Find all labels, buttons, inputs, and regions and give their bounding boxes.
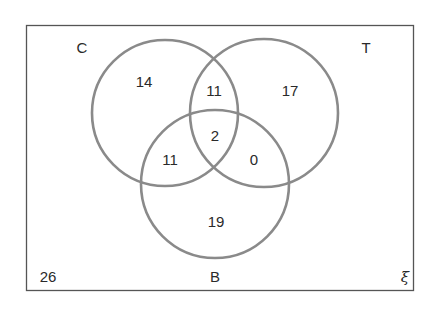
region-c-t-only: 11 xyxy=(206,82,222,99)
region-c-t-b: 2 xyxy=(211,127,219,144)
set-t-label: T xyxy=(361,39,370,56)
set-c-label: C xyxy=(77,39,88,56)
set-b-label: B xyxy=(210,268,220,285)
region-outside: 26 xyxy=(40,268,57,285)
universal-set-symbol: ξ xyxy=(401,268,410,286)
region-t-b-only: 0 xyxy=(250,151,258,168)
venn-diagram: C T B 14 17 19 11 11 0 2 26 ξ xyxy=(0,0,442,313)
region-b-only: 19 xyxy=(208,213,225,230)
region-t-only: 17 xyxy=(282,82,299,99)
region-c-only: 14 xyxy=(136,73,153,90)
region-c-b-only: 11 xyxy=(162,151,178,168)
